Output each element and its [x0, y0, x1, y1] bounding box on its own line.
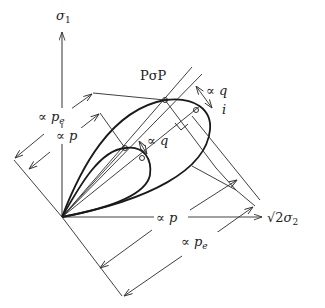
bottom-inner-end — [192, 166, 236, 190]
dim-left-outer-a — [15, 134, 44, 158]
outer-i-point — [194, 108, 199, 113]
label-q-outer: ∝ q — [206, 83, 227, 98]
inner-i-point — [140, 156, 145, 161]
yield-surface-diagram: σ1 √2σ2 i PσP ∝ pe ∝ p ∝ p ∝ pe ∝ q ∝ q — [0, 0, 325, 308]
label-bottom-p: ∝ p — [156, 210, 178, 225]
perp-outer — [165, 100, 216, 168]
sigma2-label: √2σ2 — [267, 210, 298, 227]
bottom-frame — [62, 217, 122, 296]
left-outer-end — [93, 93, 165, 100]
i-axis-line — [62, 106, 200, 217]
dim-bottom-outer-a — [124, 256, 182, 296]
ray-inner-tip — [62, 148, 125, 217]
dim-bottom-inner-a — [100, 230, 152, 268]
bottom-outer-end — [236, 190, 255, 206]
label-q-inner: ∝ q — [147, 133, 168, 148]
dim-bottom-inner-b — [190, 180, 237, 210]
i-axis-label: i — [222, 102, 226, 117]
sigma1-label: σ1 — [56, 8, 71, 25]
left-inner-end — [100, 113, 125, 148]
dim-left-inner-a — [29, 152, 50, 169]
title-psp: PσP — [140, 68, 167, 83]
label-left-p: ∝ p — [56, 128, 78, 143]
dim-bottom-outer-b — [212, 207, 253, 236]
left-frame — [14, 160, 62, 217]
